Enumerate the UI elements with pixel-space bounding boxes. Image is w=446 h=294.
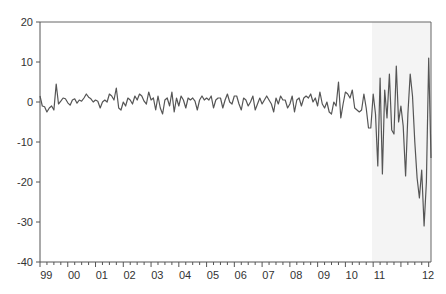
x-tick-label: 00 (68, 269, 80, 281)
y-tick-label: 10 (21, 56, 33, 68)
y-tick-label: -10 (17, 136, 33, 148)
x-tick-label: 05 (207, 269, 219, 281)
x-axis-ticks: 9900010203040506070809101112 (40, 262, 434, 281)
x-tick-label: 08 (290, 269, 302, 281)
y-tick-label: -30 (17, 216, 33, 228)
x-tick-label: 03 (151, 269, 163, 281)
y-tick-label: -20 (17, 176, 33, 188)
line-chart: 20100-10-20-30-40 9900010203040506070809… (0, 0, 446, 294)
x-tick-label: 04 (179, 269, 191, 281)
x-tick-label: 09 (318, 269, 330, 281)
x-tick-label: 99 (40, 269, 52, 281)
x-tick-label: 10 (346, 269, 358, 281)
x-tick-label: 02 (123, 269, 135, 281)
shaded-region (372, 22, 431, 262)
y-tick-label: 0 (27, 96, 33, 108)
y-tick-label: -40 (17, 256, 33, 268)
y-axis-ticks: 20100-10-20-30-40 (17, 16, 40, 268)
x-tick-label: 07 (262, 269, 274, 281)
x-tick-label: 12 (422, 269, 434, 281)
x-tick-label: 01 (96, 269, 108, 281)
x-tick-label: 06 (235, 269, 247, 281)
x-tick-label: 11 (374, 269, 385, 281)
y-tick-label: 20 (21, 16, 33, 28)
